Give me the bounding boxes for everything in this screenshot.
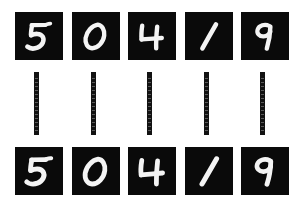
top-digit-tile-2: 0	[72, 12, 120, 60]
digit-9-glyph	[241, 12, 289, 60]
top-digit-tile-4: 1	[185, 12, 233, 60]
digit-0-glyph	[72, 147, 120, 195]
bottom-digit-tile-1: 5	[15, 147, 63, 195]
digit-0-glyph	[72, 12, 120, 60]
bottom-digit-tile-3: 4	[128, 147, 176, 195]
digit-1-glyph	[185, 147, 233, 195]
connector-bar-5	[260, 72, 265, 135]
bottom-digit-tile-4: 1	[185, 147, 233, 195]
bottom-digit-tile-5: 9	[241, 147, 289, 195]
digit-5-glyph	[15, 147, 63, 195]
connector-bar-1	[34, 72, 39, 135]
top-digit-tile-1: 5	[15, 12, 63, 60]
top-digit-tile-3: 4	[128, 12, 176, 60]
digit-4-glyph	[128, 147, 176, 195]
digit-1-glyph	[185, 12, 233, 60]
connector-bar-4	[204, 72, 209, 135]
connector-bar-3	[147, 72, 152, 135]
digit-9-glyph	[241, 147, 289, 195]
digit-4-glyph	[128, 12, 176, 60]
connector-bar-2	[91, 72, 96, 135]
top-digit-row: 5 0 4 1	[0, 12, 299, 60]
bottom-digit-row: 5 0 4 1	[0, 147, 299, 195]
top-digit-tile-5: 9	[241, 12, 289, 60]
bottom-digit-tile-2: 0	[72, 147, 120, 195]
mnist-comparison-figure: 5 0 4 1	[0, 0, 299, 211]
digit-5-glyph	[15, 12, 63, 60]
connector-row	[0, 72, 299, 135]
